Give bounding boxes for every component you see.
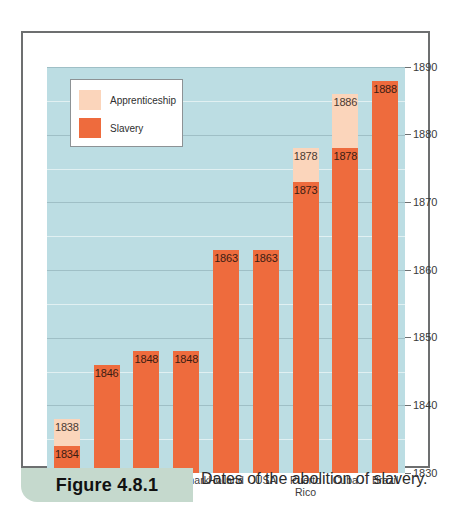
y-tick-label: 1880	[413, 129, 437, 140]
y-tick-mark	[405, 134, 411, 135]
bar-cuba[interactable]: 18861878	[332, 67, 358, 473]
bar-segment-slavery	[213, 250, 239, 473]
legend-item-slavery: Slavery	[79, 118, 143, 138]
y-axis: 1830184018501860187018801890	[405, 67, 452, 473]
y-tick-label: 1850	[413, 332, 437, 343]
legend-swatch-slavery	[79, 118, 101, 138]
figure-number-text: Figure 4.8.1	[56, 475, 158, 496]
bar-segment-slavery	[94, 365, 120, 473]
y-tick-mark	[405, 405, 411, 406]
y-tick-mark	[405, 202, 411, 203]
bar-segment-slavery	[372, 81, 398, 473]
legend-label-slavery: Slavery	[110, 123, 143, 134]
bar-value-slavery: 1834	[55, 448, 79, 460]
figure-caption-text: Dates of the abolition of slavery.	[201, 466, 429, 492]
bar-puerto-rico[interactable]: 18781873	[293, 67, 319, 473]
bar-value-slavery: 1873	[294, 184, 318, 196]
bar-value-slavery: 1848	[174, 353, 198, 365]
y-tick-label: 1890	[413, 62, 437, 73]
legend-label-apprenticeship: Apprenticeship	[110, 95, 176, 106]
figure-caption-bar: Figure 4.8.1 Dates of the abolition of s…	[21, 468, 430, 524]
bar-value-apprenticeship: 1878	[294, 150, 318, 162]
y-tick-mark	[405, 337, 411, 338]
y-tick-label: 1860	[413, 265, 437, 276]
bar-segment-slavery	[293, 182, 319, 473]
bar-value-slavery: 1846	[95, 367, 119, 379]
y-tick-mark	[405, 270, 411, 271]
bar-value-apprenticeship: 1838	[55, 421, 79, 433]
figure-number-tag: Figure 4.8.1	[21, 468, 193, 502]
bar-usa[interactable]: 1863	[253, 67, 279, 473]
bar-value-slavery: 1863	[254, 252, 278, 264]
bar-value-apprenticeship: 1886	[333, 96, 357, 108]
bar-value-slavery: 1878	[333, 150, 357, 162]
legend-item-apprenticeship: Apprenticeship	[79, 90, 176, 110]
bar-segment-slavery	[133, 351, 159, 473]
bar-brazil[interactable]: 1888	[372, 67, 398, 473]
y-tick-label: 1870	[413, 197, 437, 208]
bar-segment-slavery	[173, 351, 199, 473]
y-tick-label: 1840	[413, 400, 437, 411]
legend-swatch-apprenticeship	[79, 90, 101, 110]
bar-holland[interactable]: 1863	[213, 67, 239, 473]
bar-value-slavery: 1888	[373, 83, 397, 95]
bar-value-slavery: 1848	[135, 353, 159, 365]
figure-frame: 1838183418461848184818631863187818731886…	[21, 31, 430, 468]
bar-segment-slavery	[332, 148, 358, 473]
y-tick-mark	[405, 67, 411, 68]
bar-value-slavery: 1863	[214, 252, 238, 264]
chart-legend: Apprenticeship Slavery	[70, 79, 183, 147]
bar-segment-slavery	[253, 250, 279, 473]
